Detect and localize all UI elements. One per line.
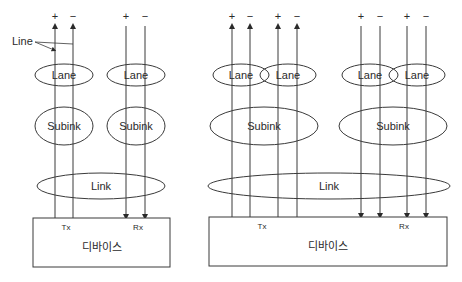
single-link-diagram: +−+−LaneLaneSubinkSubinkLinkTxRx디바이스 [33,10,170,267]
plus-sign: + [229,10,235,22]
plus-sign: + [275,10,281,22]
lane-label: Lane [229,69,253,81]
device-label: 디바이스 [82,241,122,254]
minus-sign: − [423,10,429,22]
lane-label: Lane [358,69,382,81]
rx-label: Rx [133,223,143,232]
plus-sign: + [358,10,364,22]
multi-sublink-diagram: +−+−+−+−LaneLaneLaneLaneSubinkSubinkLink… [208,10,450,266]
minus-sign: − [294,10,300,22]
lane-label: Lane [405,69,429,81]
sublink-label: Subink [47,120,81,132]
rx-label: Rx [399,222,409,231]
link-label: Link [91,180,112,192]
lane-label: Lane [52,69,76,81]
lane-label: Lane [124,69,148,81]
tx-label: Tx [62,223,71,232]
minus-sign: − [142,10,148,22]
minus-sign: − [247,10,253,22]
line-callout-label: Line [12,35,33,47]
line-callout: Line [12,35,73,50]
sublink-label: Subink [119,120,153,132]
tx-label: Tx [258,222,267,231]
device-label: 디바이스 [308,240,348,253]
plus-sign: + [404,10,410,22]
minus-sign: − [70,10,76,22]
sublink-label: Subink [376,120,410,132]
link-topology-diagram: +−+−LaneLaneSubinkSubinkLinkTxRx디바이스 +−+… [0,0,462,282]
plus-sign: + [123,10,129,22]
sublink-label: Subink [247,120,281,132]
callout-pointer [35,42,73,44]
minus-sign: − [377,10,383,22]
lane-label: Lane [276,69,300,81]
plus-sign: + [52,10,58,22]
link-label: Link [319,180,340,192]
